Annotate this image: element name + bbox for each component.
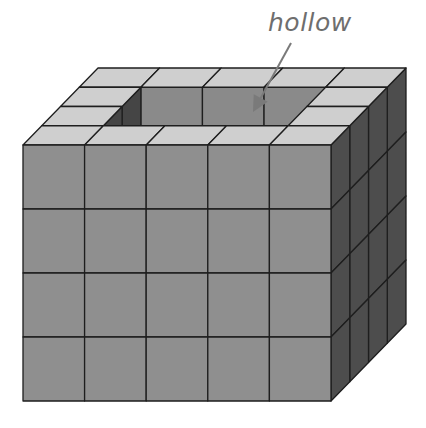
front-face xyxy=(23,337,85,401)
front-face xyxy=(85,209,147,273)
front-face xyxy=(208,209,270,273)
front-face xyxy=(23,209,85,273)
front-face xyxy=(208,273,270,337)
cube-faces xyxy=(23,68,406,401)
front-face xyxy=(269,145,331,209)
front-face xyxy=(146,145,208,209)
front-face xyxy=(269,337,331,401)
front-face xyxy=(85,337,147,401)
hollow-label: hollow xyxy=(268,8,352,37)
hollow-cube-diagram xyxy=(0,0,426,428)
front-face xyxy=(146,273,208,337)
front-face xyxy=(146,209,208,273)
front-face xyxy=(269,209,331,273)
front-face xyxy=(85,145,147,209)
front-face xyxy=(208,337,270,401)
front-face xyxy=(269,273,331,337)
front-face xyxy=(85,273,147,337)
front-face xyxy=(146,337,208,401)
front-face xyxy=(208,145,270,209)
front-face xyxy=(23,273,85,337)
front-face xyxy=(23,145,85,209)
